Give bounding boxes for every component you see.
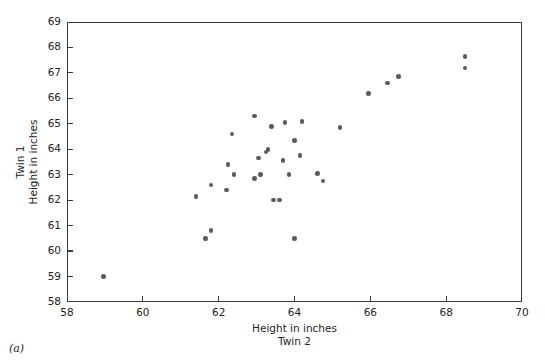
y-tick-mark <box>67 250 73 251</box>
x-tick-mark <box>294 296 295 302</box>
data-point <box>232 172 237 177</box>
x-tick-mark <box>370 296 371 302</box>
y-tick-label: 64 <box>37 143 61 154</box>
data-point <box>315 171 320 176</box>
y-tick-mark <box>67 276 73 277</box>
x-tick-label: 64 <box>280 307 310 318</box>
y-tick-mark <box>67 200 73 201</box>
y-axis-label-line1: Twin 1 <box>14 107 27 217</box>
data-point <box>269 124 274 129</box>
data-point <box>338 125 343 130</box>
x-tick-label: 68 <box>431 307 461 318</box>
data-point <box>203 236 208 241</box>
y-tick-mark <box>67 98 73 99</box>
data-point <box>194 194 199 199</box>
data-point <box>252 176 257 181</box>
y-tick-label: 58 <box>37 296 61 307</box>
y-tick-label: 66 <box>37 92 61 103</box>
x-tick-label: 58 <box>52 307 82 318</box>
y-tick-mark <box>67 174 73 175</box>
y-tick-label: 62 <box>37 194 61 205</box>
x-tick-label: 66 <box>355 307 385 318</box>
y-tick-label: 60 <box>37 245 61 256</box>
y-tick-mark <box>67 225 73 226</box>
x-tick-label: 60 <box>128 307 158 318</box>
data-point <box>283 120 288 125</box>
y-tick-label: 59 <box>37 271 61 282</box>
y-tick-label: 67 <box>37 67 61 78</box>
x-tick-label: 62 <box>204 307 234 318</box>
y-tick-mark <box>67 149 73 150</box>
x-axis-label: Height in inches Twin 2 <box>215 322 375 347</box>
y-tick-label: 68 <box>37 41 61 52</box>
y-tick-label: 65 <box>37 118 61 129</box>
y-tick-mark <box>67 123 73 124</box>
y-axis-label-line2: Height in inches <box>27 107 40 217</box>
data-point <box>277 198 282 203</box>
y-tick-mark <box>67 47 73 48</box>
x-tick-label: 70 <box>507 307 537 318</box>
data-point <box>101 274 106 279</box>
y-tick-mark <box>67 72 73 73</box>
data-point <box>463 54 468 59</box>
data-point <box>292 138 297 143</box>
x-tick-mark <box>446 296 447 302</box>
data-point <box>266 147 271 152</box>
data-point <box>292 236 297 241</box>
x-axis-label-line1: Height in inches <box>215 322 375 335</box>
y-tick-label: 69 <box>37 16 61 27</box>
y-tick-label: 63 <box>37 169 61 180</box>
data-point <box>287 172 292 177</box>
data-point <box>224 188 229 193</box>
data-point <box>366 91 371 96</box>
y-tick-label: 61 <box>37 220 61 231</box>
scatter-plot-figure: 585960616263646566676869 58606264666870 … <box>0 0 545 360</box>
x-tick-mark <box>142 296 143 302</box>
data-point <box>385 81 390 86</box>
x-tick-mark <box>218 296 219 302</box>
x-axis-label-line2: Twin 2 <box>215 335 375 348</box>
plot-area <box>67 22 522 302</box>
y-axis-label: Twin 1 Height in inches <box>14 107 39 217</box>
data-point <box>300 119 305 124</box>
data-point <box>258 172 263 177</box>
figure-caption: (a) <box>9 342 24 355</box>
